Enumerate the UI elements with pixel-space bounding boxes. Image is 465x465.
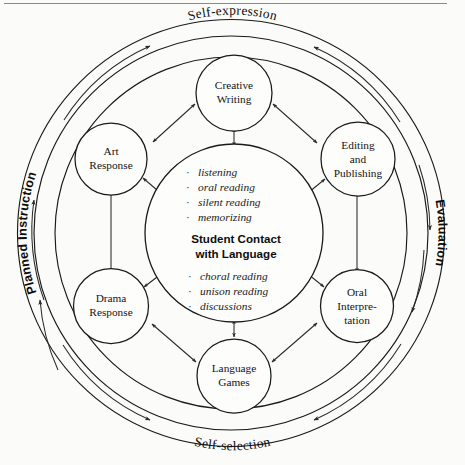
node-label-line-1: Interpre- [337,300,377,312]
node-label-line-0: Oral [347,286,367,298]
ring-label-top: Self-expression [186,3,279,24]
svg-text:·: · [186,166,190,178]
node-label-line-1: Games [218,376,249,388]
link-art-creative [153,104,195,142]
center-label-line2: with Language [194,247,277,260]
node-label-line-1: Response [89,159,132,171]
bullet-top-3: memorizing [198,211,252,223]
node-label-line-0: Drama [96,292,127,304]
bullet-top-2: silent reading [198,196,261,208]
svg-text:·: · [188,270,192,282]
svg-text:·: · [186,211,190,223]
link-creative-editing [273,104,317,143]
svg-text:·: · [188,285,192,297]
node-label-line-0: Creative [215,79,253,91]
language-arts-cycle-diagram: Self-expression Self-selection Planned I… [0,0,465,465]
ring-label-bottom: Self-selection [193,434,272,453]
link-drama-games [152,324,196,362]
node-label-line-1: Response [89,306,132,318]
bullet-bottom-1: unison reading [200,285,269,297]
center-label-line1: Student Contact [191,232,281,245]
diagram-canvas: Self-expression Self-selection Planned I… [0,0,465,465]
bullet-bottom-0: choral reading [200,270,268,282]
bullet-top-1: oral reading [198,181,255,193]
node-label-line-1: Writing [217,93,252,105]
node-creative-writing[interactable]: Creative Writing [196,55,272,131]
node-label-line-1: and [350,153,367,165]
bullet-bottom-2: discussions [200,300,252,312]
node-label-line-0: Art [103,145,119,157]
svg-text:·: · [186,196,190,208]
ring-arrow-bottom-left [63,345,150,420]
node-label-line-2: Publishing [334,167,383,179]
svg-text:·: · [188,300,192,312]
node-oral-interpretation[interactable]: Oral Interpre- tation [321,270,394,343]
node-language-games[interactable]: Language Games [197,339,271,413]
node-label-line-2: tation [344,314,370,326]
node-label-line-0: Editing [341,139,375,151]
node-label-line-0: Language [212,362,257,374]
svg-text:·: · [186,181,190,193]
link-games-oral [272,323,317,362]
node-drama-response[interactable]: Drama Response [74,269,149,344]
node-art-response[interactable]: Art Response [75,123,147,195]
ring-label-left: Planned Instruction [16,170,40,296]
node-editing-publishing[interactable]: Editing and Publishing [321,122,395,196]
ring-arrow-left-lower [40,300,58,370]
bullet-top-0: listening [198,166,238,178]
ring-label-right: Evaluation [433,199,450,268]
